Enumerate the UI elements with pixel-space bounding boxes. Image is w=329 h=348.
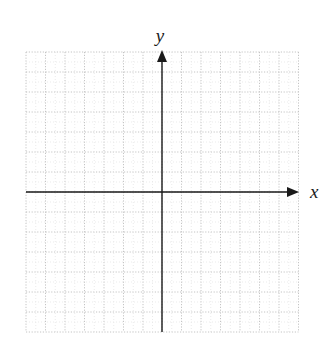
axes xyxy=(26,50,299,332)
y-axis-label: y xyxy=(154,25,165,46)
coordinate-plane: x y xyxy=(0,0,329,348)
x-axis-arrow-icon xyxy=(287,187,299,197)
x-axis-label: x xyxy=(309,181,319,202)
